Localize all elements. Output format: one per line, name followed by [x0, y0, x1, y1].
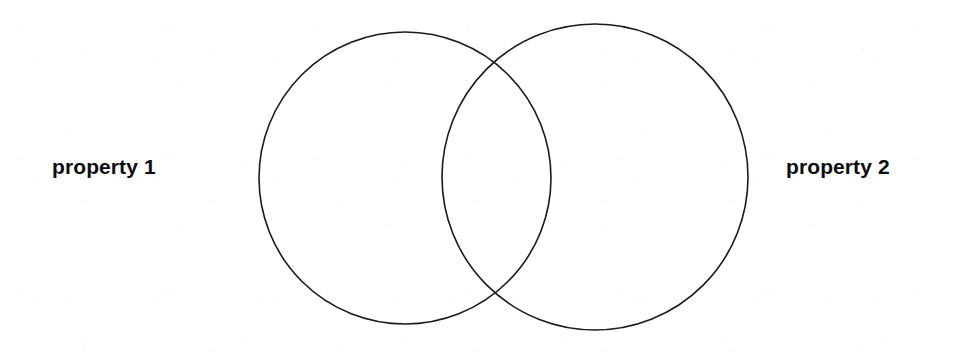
venn-diagram-canvas: property 1 property 2	[0, 0, 962, 355]
venn-label-left: property 1	[52, 156, 156, 177]
venn-label-right: property 2	[786, 156, 890, 177]
venn-circle-right[interactable]	[442, 24, 748, 330]
venn-circle-left[interactable]	[259, 32, 551, 324]
